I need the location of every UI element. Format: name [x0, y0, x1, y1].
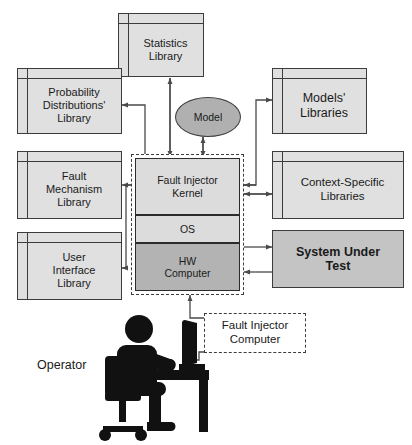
component-probability-distributions-library[interactable]: Probability Distributions' Library: [17, 68, 122, 134]
component-label: Probability Distributions' Library: [34, 77, 106, 124]
component-top-bar: [119, 23, 203, 24]
component-label: Statistics Library: [134, 28, 187, 63]
layer-fault-injector-kernel[interactable]: Fault Injector Kernel: [136, 159, 239, 216]
layer-hw-computer[interactable]: HW Computer: [136, 244, 239, 290]
wire-kernel-to-models-libraries: [240, 100, 272, 185]
wire-kernel-to-probability: [122, 105, 145, 157]
component-statistics-library[interactable]: Statistics Library: [118, 13, 204, 77]
fault-injector-computer-stack[interactable]: Fault Injector Kernel OS HW Computer: [131, 154, 244, 295]
component-label: User Interface Library: [44, 242, 96, 289]
component-user-interface-library[interactable]: User Interface Library: [17, 232, 122, 300]
component-system-under-test[interactable]: System Under Test: [272, 230, 404, 288]
diagram-canvas: Statistics Library Probability Distribut…: [0, 0, 412, 445]
component-label: Context-Specific Libraries: [292, 167, 385, 203]
stack-inner: Fault Injector Kernel OS HW Computer: [135, 158, 240, 291]
component-label: Models' Libraries: [291, 82, 348, 120]
component-context-specific-libraries[interactable]: Context-Specific Libraries: [272, 151, 404, 219]
component-top-bar: [273, 78, 366, 79]
operator-figure-icon: [95, 312, 215, 442]
component-fault-mechanism-library[interactable]: Fault Mechanism Library: [17, 151, 122, 219]
callout-fault-injector-computer[interactable]: Fault Injector Computer: [204, 313, 306, 353]
component-label: Fault Mechanism Library: [37, 161, 102, 208]
layer-os[interactable]: OS: [136, 216, 239, 244]
operator-label: Operator: [37, 358, 86, 372]
component-top-bar: [273, 161, 403, 162]
component-models-libraries[interactable]: Models' Libraries: [272, 68, 367, 134]
node-model[interactable]: Model: [175, 97, 241, 137]
